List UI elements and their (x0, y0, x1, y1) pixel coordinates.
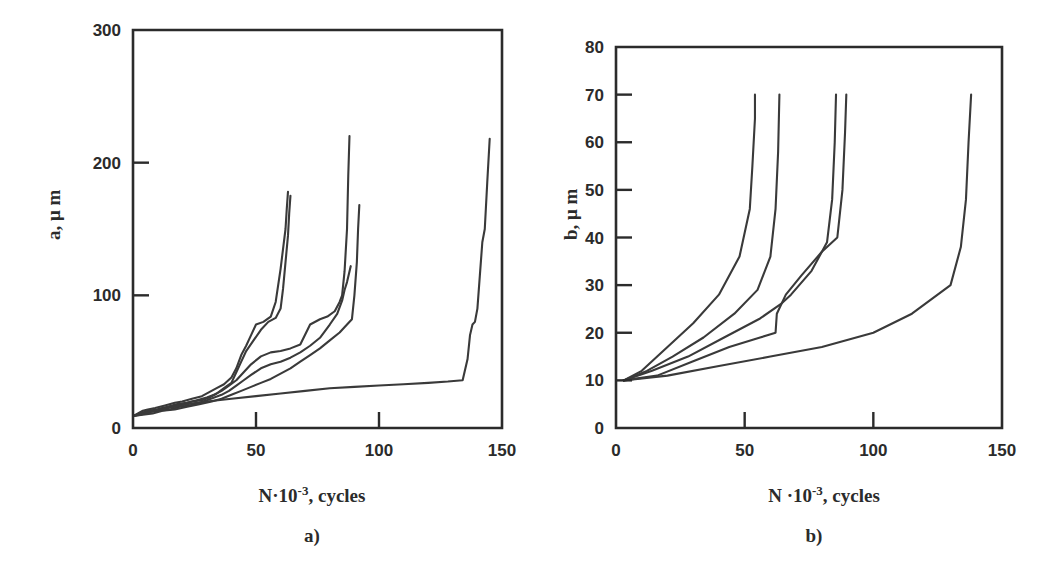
chart-a-curves (133, 136, 490, 416)
a-series-specimen-6 (133, 139, 490, 416)
a-y-tick-label-300: 300 (93, 21, 121, 40)
b-series-specimen-1 (624, 95, 755, 381)
chart-a-caption: a) (304, 525, 320, 547)
a-series-specimen-3 (133, 136, 349, 416)
chart-b-tick-labels: 01020304050607080050100150 (585, 38, 1016, 460)
b-y-tick-label-10: 10 (585, 371, 604, 390)
b-axis-frame (616, 47, 1002, 428)
b-y-tick-label-30: 30 (585, 276, 604, 295)
chart-b-x-axis-title: N ·10-3, cycles (768, 483, 880, 506)
chart-a-x-axis-title: N·10-3, cycles (259, 483, 366, 506)
b-y-tick-label-50: 50 (585, 181, 604, 200)
chart-a-y-axis-title: a, μ m (43, 189, 64, 240)
chart-b-caption: b) (806, 525, 823, 547)
a-y-tick-label-100: 100 (93, 286, 121, 305)
b-x-tick-label-100: 100 (859, 441, 887, 460)
a-series-specimen-5 (133, 205, 359, 416)
panel-a: 0100200300050100150 a, μ m N·10-3, cycle… (0, 0, 524, 565)
a-x-tick-label-150: 150 (488, 441, 516, 460)
a-axis-frame (133, 30, 502, 428)
a-x-tick-label-50: 50 (247, 441, 266, 460)
a-x-tick-label-100: 100 (365, 441, 393, 460)
a-x-tick-label-0: 0 (128, 441, 137, 460)
b-series-specimen-5 (624, 95, 971, 381)
b-series-specimen-3 (624, 95, 836, 381)
a-y-tick-label-0: 0 (112, 419, 121, 438)
b-x-tick-label-150: 150 (988, 441, 1016, 460)
chart-a-axes (133, 30, 502, 428)
a-series-specimen-2 (133, 196, 290, 416)
panel-b: 01020304050607080050100150 b, μ m N ·10-… (524, 0, 1048, 565)
chart-b-canvas: 01020304050607080050100150 b, μ m N ·10-… (524, 0, 1048, 565)
b-y-tick-label-20: 20 (585, 324, 604, 343)
b-y-tick-label-40: 40 (585, 229, 604, 248)
b-x-tick-label-50: 50 (735, 441, 754, 460)
a-series-specimen-4 (133, 266, 351, 416)
chart-a-tick-labels: 0100200300050100150 (93, 21, 517, 460)
b-x-tick-label-0: 0 (611, 441, 620, 460)
b-y-tick-label-0: 0 (595, 419, 604, 438)
chart-b-curves (624, 95, 971, 381)
b-y-tick-label-70: 70 (585, 86, 604, 105)
b-series-specimen-2 (624, 95, 780, 381)
chart-a-canvas: 0100200300050100150 a, μ m N·10-3, cycle… (0, 0, 524, 565)
b-y-tick-label-60: 60 (585, 133, 604, 152)
figure-root: 0100200300050100150 a, μ m N·10-3, cycle… (0, 0, 1048, 565)
a-y-tick-label-200: 200 (93, 154, 121, 173)
b-series-specimen-4 (624, 95, 847, 381)
chart-b-axes (616, 47, 1002, 428)
b-y-tick-label-80: 80 (585, 38, 604, 57)
chart-b-y-axis-title: b, μ m (560, 188, 581, 240)
